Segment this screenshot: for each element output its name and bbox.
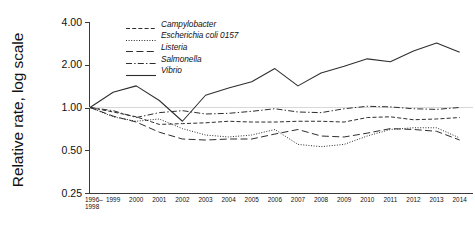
legend-line-sample-icon	[126, 54, 156, 63]
legend-item-label: Listeria	[161, 42, 187, 52]
y-tick-mark	[85, 22, 89, 23]
y-tick-label: 2.00	[38, 59, 82, 70]
legend-item: Campylobacter	[126, 18, 306, 30]
chart-legend: CampylobacterEscherichia coli 0157Lister…	[126, 18, 306, 76]
legend-line-sample-icon	[126, 19, 156, 28]
y-tick-label: 4.00	[38, 17, 82, 28]
y-tick-label: 0.50	[38, 145, 82, 156]
legend-item-label: Escherichia coli 0157	[161, 30, 238, 40]
x-tick-label: 2014	[440, 196, 475, 203]
legend-item-label: Campylobacter	[161, 19, 216, 29]
series-line-listeria	[90, 108, 460, 141]
y-tick-mark	[85, 65, 89, 66]
legend-line-sample-icon	[126, 31, 156, 40]
legend-item: Vibrio	[126, 64, 306, 76]
chart-figure: Relative rate, log scale 4.002.001.000.5…	[0, 0, 475, 234]
legend-item-label: Salmonella	[161, 54, 202, 64]
y-tick-mark	[85, 193, 89, 194]
legend-line-sample-icon	[126, 66, 156, 75]
y-tick-mark	[85, 108, 89, 109]
legend-item: Escherichia coli 0157	[126, 30, 306, 42]
x-axis-tick-labels: 1996–19981999200020012002200320042005200…	[0, 196, 475, 232]
legend-item: Salmonella	[126, 53, 306, 65]
y-axis-title: Relative rate, log scale	[9, 18, 27, 202]
y-tick-mark	[85, 150, 89, 151]
legend-item: Listeria	[126, 41, 306, 53]
legend-item-label: Vibrio	[161, 65, 182, 75]
y-tick-label: 1.00	[38, 102, 82, 113]
legend-line-sample-icon	[126, 42, 156, 51]
series-line-escherichia-coli-0157	[90, 108, 460, 147]
